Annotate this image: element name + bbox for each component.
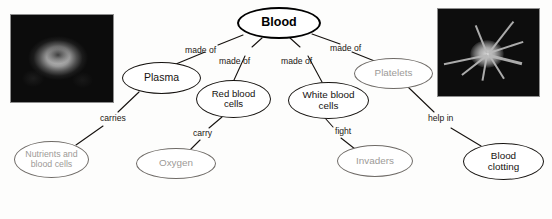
platelet-micrograph — [437, 8, 540, 97]
edge-label-help-in: help in — [428, 113, 453, 123]
edge-wbc-invaders-upper — [325, 118, 333, 127]
photo-frame — [10, 14, 114, 103]
node-white-blood-cells-label: White bloodcells — [298, 90, 358, 111]
node-invaders[interactable]: Invaders — [337, 145, 413, 177]
node-nutrients-and-blood-cells[interactable]: Nutrients andblood cells — [14, 141, 89, 178]
node-platelets[interactable]: Platelets — [354, 58, 433, 89]
red-blood-cells-micrograph — [10, 14, 114, 103]
edge-blood-rbc-upper — [252, 38, 262, 47]
node-oxygen-label: Oxygen — [155, 158, 197, 168]
edge-label-made-of-platelets: made of — [330, 43, 361, 53]
node-plasma-label: Plasma — [140, 72, 183, 83]
edge-platelets-clotting-lower — [451, 128, 481, 146]
node-plasma[interactable]: Plasma — [122, 62, 201, 94]
page-canvas: Blood Plasma Red bloodcells White bloodc… — [0, 0, 552, 219]
node-white-blood-cells[interactable]: White bloodcells — [288, 82, 369, 119]
edge-platelets-clotting-upper — [408, 87, 434, 112]
clotting-line1: Blood — [491, 150, 516, 161]
edge-label-made-of-wbc: made of — [281, 56, 312, 66]
node-invaders-label: Invaders — [352, 156, 398, 166]
edge-blood-wbc-upper — [290, 38, 300, 47]
edge-label-made-of-rbc: made of — [219, 56, 250, 66]
edge-label-made-of-plasma: made of — [185, 45, 216, 55]
edge-blood-plasma-upper — [218, 35, 243, 45]
nutrients-line2: blood cells — [31, 159, 73, 169]
wbc-line1: White blood — [302, 89, 354, 100]
node-oxygen[interactable]: Oxygen — [136, 148, 216, 179]
edge-plasma-nutrients-upper — [118, 92, 139, 112]
edge-plasma-nutrients-lower — [76, 126, 103, 145]
clotting-line2: clotting — [488, 161, 519, 172]
node-red-blood-cells[interactable]: Red bloodcells — [196, 80, 271, 118]
node-blood[interactable]: Blood — [237, 7, 321, 39]
edge-label-carries: carries — [100, 113, 126, 123]
photo-frame — [437, 8, 540, 97]
edge-rbc-oxygen-upper — [209, 117, 222, 128]
edge-label-carry: carry — [193, 128, 212, 138]
edge-label-fight: fight — [335, 126, 351, 136]
node-blood-label: Blood — [257, 16, 300, 29]
node-red-blood-cells-label: Red bloodcells — [208, 89, 260, 109]
node-platelets-label: Platelets — [371, 68, 417, 78]
node-nutrients-label: Nutrients andblood cells — [21, 150, 81, 168]
node-blood-clotting[interactable]: Bloodclotting — [463, 143, 544, 180]
rbc-line2: cells — [224, 98, 243, 109]
wbc-line2: cells — [319, 100, 339, 111]
node-blood-clotting-label: Bloodclotting — [484, 151, 523, 172]
page-footer: Science nline life.msscience.com/interac… — [0, 190, 552, 219]
